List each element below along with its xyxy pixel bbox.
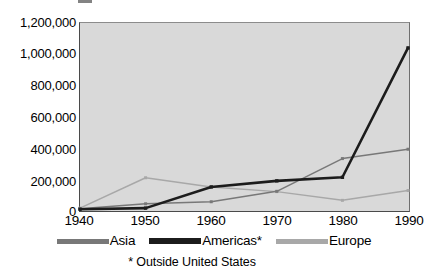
data-point-marker <box>210 185 213 188</box>
series-line <box>80 149 408 209</box>
series-asia <box>79 148 410 211</box>
series-canvas <box>80 23 409 211</box>
data-point-marker <box>144 206 147 209</box>
chart-footnote-text: * Outside United States <box>128 255 256 269</box>
data-point-marker <box>407 189 410 192</box>
plot-area <box>79 22 410 212</box>
data-point-marker <box>78 208 81 211</box>
data-point-marker <box>341 199 344 202</box>
legend-item-europe: Europe <box>276 234 371 248</box>
line-chart-figure: 1,200,000 1,000,000 800,000 600,000 400,… <box>0 0 428 276</box>
data-point-marker <box>144 202 147 205</box>
data-point-marker <box>341 176 344 179</box>
data-point-marker <box>341 157 344 160</box>
legend-swatch-asia <box>57 239 109 244</box>
y-tick-label-200000: 200,000 <box>2 175 76 188</box>
x-tick-label-1950: 1950 <box>122 214 168 228</box>
data-point-marker <box>407 148 410 151</box>
y-tick-label-400000: 400,000 <box>2 143 76 156</box>
y-tick-label-1000000: 1,000,000 <box>2 47 76 60</box>
legend-swatch-europe <box>276 239 328 244</box>
series-line <box>80 178 408 208</box>
data-point-marker <box>275 179 278 182</box>
data-point-marker <box>210 200 213 203</box>
x-tick-label-1970: 1970 <box>254 214 300 228</box>
legend-swatch-americas <box>149 238 201 244</box>
series-layer <box>78 46 409 211</box>
data-point-marker <box>275 190 278 193</box>
legend-label-americas: Americas* <box>202 234 262 248</box>
y-tick-label-1200000: 1,200,000 <box>2 16 76 29</box>
legend-item-americas: Americas* <box>149 234 262 248</box>
x-tick-label-1980: 1980 <box>320 214 366 228</box>
x-tick-label-1940: 1940 <box>56 214 102 228</box>
x-tick-label-1990: 1990 <box>386 214 428 228</box>
chart-legend: Asia Americas* Europe <box>0 234 428 248</box>
legend-label-asia: Asia <box>110 234 135 248</box>
legend-item-asia: Asia <box>57 234 135 248</box>
y-tick-label-800000: 800,000 <box>2 79 76 92</box>
data-point-marker <box>406 46 409 49</box>
data-point-marker <box>144 176 147 179</box>
cropped-title-artifact <box>78 0 92 3</box>
x-tick-label-1960: 1960 <box>188 214 234 228</box>
y-tick-label-600000: 600,000 <box>2 111 76 124</box>
chart-footnote: * Outside United States <box>0 255 428 269</box>
legend-label-europe: Europe <box>329 234 371 248</box>
